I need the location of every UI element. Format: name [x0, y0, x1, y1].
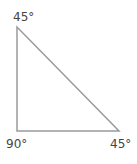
- right-triangle-diagram: 45° 90° 45°: [0, 0, 137, 164]
- angle-label-top: 45°: [13, 10, 34, 24]
- angle-label-bottom-right: 45°: [110, 137, 131, 151]
- angle-label-bottom-left: 90°: [6, 137, 27, 151]
